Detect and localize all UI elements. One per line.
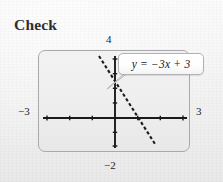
axis-label-bottom: −2 bbox=[104, 159, 116, 171]
equation-callout: y = −3x + 3 bbox=[118, 53, 204, 75]
axis-label-left: −3 bbox=[18, 105, 30, 117]
equation-text: y = −3x + 3 bbox=[132, 58, 191, 70]
page-title: Check bbox=[14, 16, 57, 34]
axis-label-right: 3 bbox=[196, 105, 202, 117]
page-root: Check 4 −3 3 −2 bbox=[0, 0, 223, 182]
axis-label-top: 4 bbox=[106, 33, 112, 45]
